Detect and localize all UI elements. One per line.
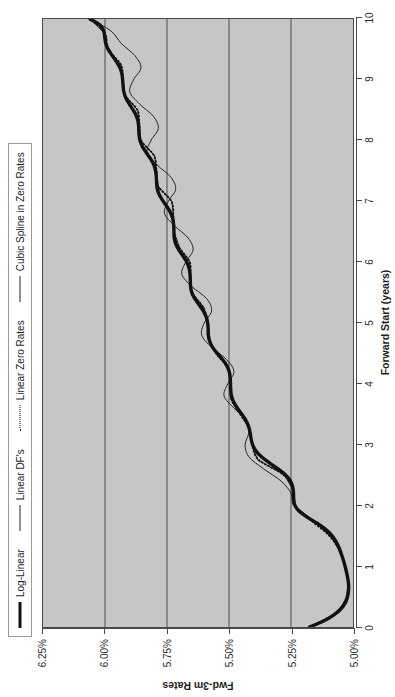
x-tick	[357, 444, 362, 445]
x-tick	[357, 200, 362, 201]
thin-line-key-icon	[15, 505, 25, 531]
chart-screenshot: Log-Linear Linear DF's Linear Zero Rates…	[0, 0, 395, 697]
x-tick-label: 2	[364, 503, 375, 509]
legend-entry-linear-dfs: Linear DF's	[15, 449, 26, 531]
x-tick	[357, 78, 362, 79]
chart-legend: Log-Linear Linear DF's Linear Zero Rates…	[8, 143, 32, 637]
figure: Log-Linear Linear DF's Linear Zero Rates…	[0, 0, 395, 697]
x-axis-title: Forward Start (years)	[379, 17, 391, 628]
legend-label: Log-Linear	[15, 549, 26, 597]
x-tick-label: 3	[364, 442, 375, 448]
legend-entry-log-linear: Log-Linear	[15, 549, 26, 628]
x-tick	[357, 505, 362, 506]
y-tick-label: 6.25%	[37, 639, 48, 667]
x-tick	[357, 383, 362, 384]
x-tick-label: 9	[364, 76, 375, 82]
x-tick	[357, 261, 362, 262]
x-tick-label: 4	[364, 381, 375, 387]
y-tick-label: 5.75%	[161, 639, 172, 667]
y-tick	[167, 629, 168, 634]
x-tick	[357, 627, 362, 628]
series-line	[91, 19, 348, 627]
plot-panel	[42, 18, 354, 628]
x-tick-label: 7	[364, 198, 375, 204]
dotted-line-key-icon	[15, 405, 25, 431]
x-tick-label: 5	[364, 320, 375, 326]
series-line	[90, 19, 348, 627]
y-tick	[292, 629, 293, 634]
x-tick-label: 1	[364, 564, 375, 570]
thick-line-key-icon	[15, 602, 25, 628]
x-tick	[357, 322, 362, 323]
y-tick	[229, 629, 230, 634]
legend-label: Linear Zero Rates	[15, 320, 26, 400]
x-tick-label: 0	[364, 625, 375, 631]
x-tick-label: 8	[364, 137, 375, 143]
legend-label: Linear DF's	[15, 449, 26, 500]
y-tick	[104, 629, 105, 634]
y-tick	[42, 629, 43, 634]
legend-entry-linear-zero-rates: Linear Zero Rates	[15, 320, 26, 431]
y-axis-title-text: Fwd-3m Rates	[162, 680, 233, 692]
x-tick-label: 10	[364, 12, 375, 23]
legend-entry-cubic-spline: Cubic Spline in Zero Rates	[15, 152, 26, 302]
series-line	[90, 19, 349, 627]
thin-line-key-icon	[15, 276, 25, 302]
y-tick-label: 5.00%	[349, 639, 360, 667]
plot-area-svg	[43, 19, 353, 627]
y-tick-label: 6.00%	[99, 639, 110, 667]
x-tick	[357, 139, 362, 140]
series-line	[90, 19, 348, 627]
x-tick	[357, 566, 362, 567]
y-tick-label: 5.50%	[224, 639, 235, 667]
x-tick-label: 6	[364, 259, 375, 265]
y-tick-label: 5.25%	[286, 639, 297, 667]
legend-label: Cubic Spline in Zero Rates	[15, 152, 26, 271]
x-tick	[357, 17, 362, 18]
y-axis-line	[42, 628, 355, 629]
y-axis-title: Fwd-3m Rates	[42, 679, 354, 693]
y-tick	[354, 629, 355, 634]
